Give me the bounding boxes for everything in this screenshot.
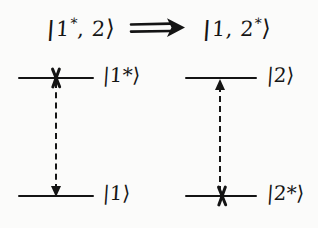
- energy-level-label-lower-left: |1⟩: [102, 183, 131, 203]
- initial-state-rest: , 2: [76, 17, 106, 41]
- implies-double-arrow-icon: [129, 15, 189, 41]
- ket-angle-close-2: ⟩: [286, 63, 295, 87]
- diagram-acceptor-excitation: |2⟩ |2*⟩: [159, 60, 318, 220]
- energy-level-line-lower-left: [18, 195, 94, 197]
- final-state-index: 1, 2: [211, 17, 255, 41]
- ket-angle-close: ⟩: [105, 15, 116, 41]
- diagram-donor-deexcitation: |1*⟩ |1⟩: [0, 60, 159, 220]
- energy-level-label-lower-right: |2*⟩: [266, 183, 305, 203]
- transition-dashed-line-left: [55, 82, 57, 190]
- initial-state-index: 1: [55, 17, 71, 41]
- ket-angle-close-final: ⟩: [261, 15, 272, 41]
- energy-level-label-upper-right: |2⟩: [266, 65, 295, 85]
- x-mark-icon-lower-right: [211, 185, 233, 207]
- initial-state-ket: |1*, 2⟩: [46, 17, 116, 40]
- figure-canvas: |1*, 2⟩ |1, 2*⟩ |1*⟩ |1⟩ |2⟩ |2*⟩: [0, 0, 318, 228]
- transition-dashed-line-right: [219, 86, 221, 192]
- title-equation: |1*, 2⟩ |1, 2*⟩: [0, 8, 318, 48]
- ket-angle-close-1: ⟩: [122, 181, 131, 205]
- energy-level-label-upper-left: |1*⟩: [102, 65, 141, 85]
- ket-angle-close-2star: ⟩: [296, 181, 305, 205]
- ket-angle-close-1star: ⟩: [132, 63, 141, 87]
- final-state-ket: |1, 2*⟩: [202, 17, 272, 40]
